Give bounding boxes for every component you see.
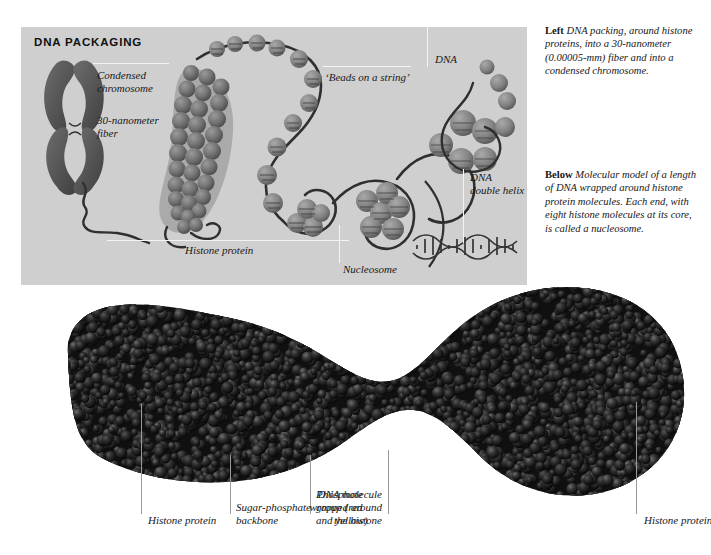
label-beads-on-a-string: ‘Beads on a string’ (325, 71, 445, 84)
caption-below: Below Molecular model of a length of DNA… (545, 168, 697, 235)
label-dna: DNA (435, 53, 485, 66)
label-histone-protein-right: Histone protein (644, 514, 711, 527)
caption-left-lead: Left (545, 25, 564, 36)
dna-packaging-panel: DNA PACKAGING (21, 27, 527, 285)
leader-condensed-chromosome (93, 63, 169, 64)
label-thirty-nanometer-fiber: 30-nanometer fiber (97, 114, 192, 140)
caption-below-lead: Below (545, 169, 573, 180)
figure-root: DNA PACKAGING (0, 0, 711, 555)
loose-chromatin-art (333, 60, 516, 249)
label-histone-protein-diagram: Histone protein (185, 244, 295, 257)
leader-histone-protein-right (636, 402, 637, 514)
label-condensed-chromosome: Condensed chromosome (97, 69, 187, 95)
nucleosome-cluster-art (283, 190, 336, 237)
caption-left: Left DNA packing, around histone protein… (545, 24, 697, 78)
leader-dna (427, 27, 428, 67)
space-filling-atoms (40, 258, 700, 508)
leader-beads-on-a-string (323, 66, 411, 67)
caption-left-body: DNA packing, around histone proteins, in… (545, 25, 692, 76)
nucleosome-molecular-model (40, 258, 700, 508)
leader-sugar-phosphate-backbone (230, 455, 231, 514)
label-dna-molecule-wrapped: DNA molecule wrapped around the histone (286, 488, 382, 528)
leader-histone-protein-diagram (107, 240, 349, 241)
label-dna-double-helix: DNA double helix (470, 171, 527, 197)
leader-dna-double-helix (463, 169, 464, 243)
leader-histone-protein-left (141, 404, 142, 514)
